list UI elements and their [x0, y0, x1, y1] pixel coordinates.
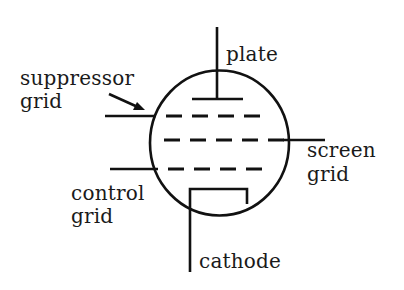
- cathode-label: cathode: [199, 251, 281, 271]
- suppressor-grid-label-line1: suppressor: [20, 68, 134, 88]
- suppressor-arrow-icon: [109, 94, 145, 110]
- screen-grid-label-line2: grid: [307, 164, 349, 184]
- control-grid-label-line2: grid: [71, 206, 113, 226]
- tube-envelope: [150, 71, 289, 216]
- control-grid-label-line1: control: [71, 183, 145, 203]
- plate-label: plate: [226, 44, 278, 64]
- pentode-diagram: plate suppressor grid screen grid contro…: [0, 0, 404, 290]
- suppressor-grid-label-line2: grid: [20, 91, 62, 111]
- screen-grid-label-line1: screen: [307, 140, 376, 160]
